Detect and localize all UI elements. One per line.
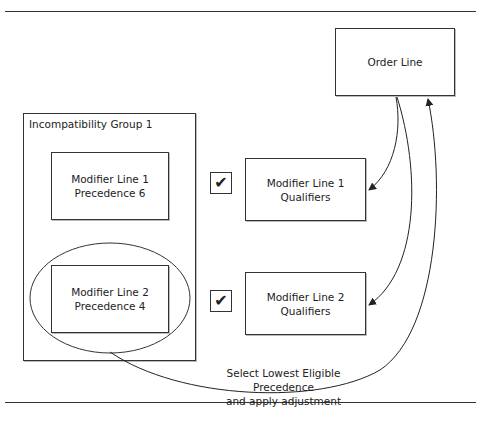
modifier-line-2-precedence: Precedence 4 <box>75 299 146 313</box>
checkmark-icon: ✔ <box>210 172 232 194</box>
selection-caption: Select Lowest Eligible Precedence and ap… <box>196 366 371 408</box>
modifier-line-2-qualifiers-box: Modifier Line 2 Qualifiers <box>245 272 366 335</box>
checkmark-icon: ✔ <box>210 290 232 312</box>
modifier-line-1-precedence: Precedence 6 <box>75 186 146 200</box>
modifier-line-2-name: Modifier Line 2 <box>71 285 149 299</box>
qualifiers-1-name: Modifier Line 1 <box>267 176 345 190</box>
modifier-line-2-box: Modifier Line 2 Precedence 4 <box>51 265 169 333</box>
caption-line-2: and apply adjustment <box>196 394 371 408</box>
qualifiers-1-label: Qualifiers <box>280 190 330 204</box>
qualifiers-2-name: Modifier Line 2 <box>267 290 345 304</box>
arrow-to-qualifiers-2 <box>369 97 412 305</box>
arrow-to-qualifiers-1 <box>369 97 398 190</box>
modifier-line-1-name: Modifier Line 1 <box>71 172 149 186</box>
qualifiers-2-label: Qualifiers <box>280 304 330 318</box>
order-line-label: Order Line <box>367 55 422 69</box>
order-line-box: Order Line <box>335 28 455 96</box>
top-rule <box>5 11 476 12</box>
incompatibility-group-label: Incompatibility Group 1 <box>29 118 152 130</box>
modifier-line-1-qualifiers-box: Modifier Line 1 Qualifiers <box>245 158 366 221</box>
caption-line-1: Select Lowest Eligible Precedence <box>196 366 371 394</box>
modifier-line-1-box: Modifier Line 1 Precedence 6 <box>51 152 169 220</box>
